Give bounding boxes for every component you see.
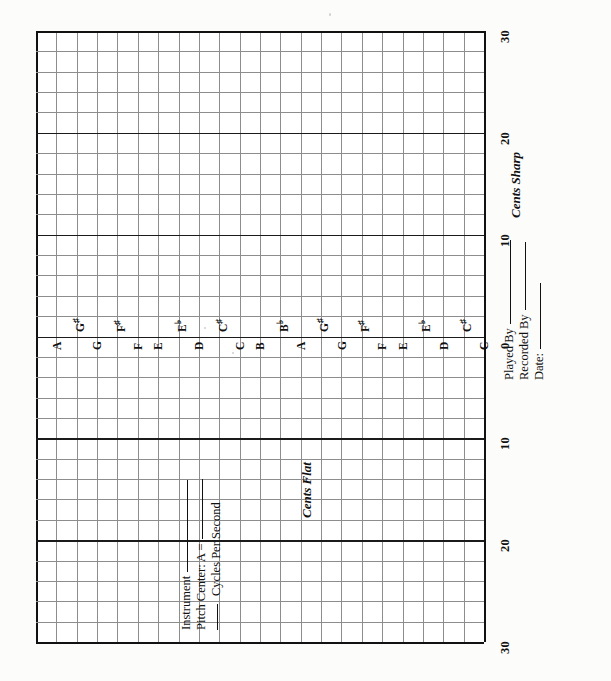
grid-hline: [36, 418, 484, 419]
form-cycles-input[interactable]: [217, 604, 218, 630]
note-label-C: C: [478, 341, 490, 349]
grid-hline: [36, 601, 484, 602]
paper-speck: [329, 13, 331, 16]
note-label-Eflat: E♭: [173, 320, 188, 332]
note-label-D: D: [438, 341, 450, 349]
grid-hline: [36, 622, 484, 623]
grid-hline-major: [36, 642, 484, 644]
grid-horizontal-lines: [36, 31, 484, 642]
grid-hline: [36, 459, 484, 460]
grid-hline: [36, 316, 484, 317]
grid-hline: [36, 377, 484, 378]
axis-title-cents-sharp: Cents Sharp: [508, 152, 524, 218]
form-date-row[interactable]: Date:: [529, 283, 547, 380]
note-label-G: G: [336, 341, 348, 350]
note-label-B: B: [254, 342, 266, 350]
grid-hline: [36, 214, 484, 215]
grid-hline-major: [36, 438, 484, 440]
grid-hline: [36, 51, 484, 52]
grid-hline-major: [36, 31, 484, 33]
grid-hline-major: [36, 133, 484, 135]
note-label-A: A: [295, 341, 307, 349]
form-cycles-row[interactable]: Cycles Per Second: [206, 502, 224, 630]
grid-hline-major: [36, 235, 484, 237]
tick-flat-20: 20: [498, 539, 513, 552]
grid-hline: [36, 581, 484, 582]
note-label-Csharp: C♯: [214, 319, 229, 332]
note-label-G: G: [91, 341, 103, 350]
grid-hline: [36, 72, 484, 73]
form-instrument-input[interactable]: [187, 480, 188, 572]
grid-hline: [36, 499, 484, 500]
grid-hline: [36, 520, 484, 521]
grid-hline: [36, 112, 484, 113]
tick-sharp-20: 20: [498, 132, 513, 145]
tick-flat-10: 10: [498, 437, 513, 450]
note-label-Csharp: C♯: [458, 319, 473, 332]
grid-hline: [36, 398, 484, 399]
axis-title-cents-flat: Cents Flat: [299, 462, 315, 518]
note-label-Bflat: B♭: [275, 320, 290, 332]
note-label-Gsharp: G♯: [71, 318, 86, 331]
grid-hline: [36, 275, 484, 276]
note-label-F: F: [376, 342, 388, 349]
paper-speck: [232, 352, 234, 354]
note-label-E: E: [397, 342, 409, 350]
grid-hline-major: [36, 540, 484, 542]
note-label-C: C: [234, 341, 246, 349]
tick-flat-30: 30: [498, 641, 513, 654]
note-label-Eflat: E♭: [417, 320, 432, 332]
grid-hline: [36, 357, 484, 358]
grid-hline: [36, 296, 484, 297]
form-recorded-by-input[interactable]: [525, 242, 526, 310]
note-label-Fsharp: F♯: [356, 320, 371, 332]
note-label-F: F: [132, 342, 144, 349]
form-cycles-label: Cycles Per Second: [209, 502, 223, 596]
grid-hline: [36, 174, 484, 175]
grid-hline: [36, 92, 484, 93]
note-label-Fsharp: F♯: [112, 320, 127, 332]
note-label-E: E: [152, 342, 164, 350]
grid-hline-major: [36, 337, 484, 339]
grid-hline: [36, 153, 484, 154]
tick-sharp-30: 30: [498, 30, 513, 43]
grid-hline: [36, 255, 484, 256]
intonation-chart-page: AG♯GF♯FEE♭DC♯CBB♭AG♯GF♯FEE♭DC♯C 30201001…: [0, 0, 611, 681]
note-label-D: D: [193, 341, 205, 349]
grid-hline: [36, 194, 484, 195]
grid-hline: [36, 561, 484, 562]
form-pitch-center-input[interactable]: [202, 479, 203, 539]
grid-vline: [484, 31, 486, 642]
note-label-A: A: [51, 341, 63, 349]
note-label-Gsharp: G♯: [315, 318, 330, 331]
grid-hline: [36, 479, 484, 480]
chart-grid: [36, 31, 484, 642]
form-played-by-input[interactable]: [510, 240, 511, 324]
paper-speck: [204, 327, 206, 329]
form-date-label: Date:: [532, 353, 546, 380]
form-date-input[interactable]: [540, 283, 541, 349]
